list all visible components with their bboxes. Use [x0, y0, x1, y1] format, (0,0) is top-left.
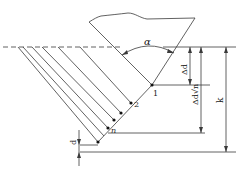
point-n-label: n — [111, 126, 116, 135]
d-label: d — [69, 140, 78, 145]
arrowhead — [188, 47, 192, 53]
point — [112, 118, 115, 121]
infeed-line — [42, 47, 114, 120]
arrowhead — [77, 152, 81, 158]
angle-label: α — [144, 36, 151, 47]
arc-arrow-right — [167, 49, 174, 53]
arrowhead — [224, 47, 228, 53]
delta-d-sqrtn-label: Δd√n — [191, 84, 200, 105]
point-1-label: 1 — [153, 89, 158, 98]
diagram-canvas: α 1 2 n Δd Δd√n k d — [0, 0, 239, 177]
point-n — [106, 126, 109, 129]
point-last — [96, 140, 99, 143]
point-1 — [150, 83, 153, 86]
k-label: k — [215, 97, 225, 103]
arrowhead — [199, 127, 203, 133]
infeed-line — [18, 47, 98, 142]
arrowhead — [199, 47, 203, 53]
point-2 — [129, 101, 132, 104]
arc-arrow-left — [122, 50, 128, 55]
point-2-label: 2 — [134, 100, 139, 109]
infeed-line — [80, 47, 131, 103]
point — [119, 111, 122, 114]
infeed-diagram: α 1 2 n Δd Δd√n k d — [0, 0, 239, 177]
delta-d-label: Δd — [180, 64, 189, 75]
arrowhead — [224, 146, 228, 152]
flank-line — [98, 85, 152, 142]
